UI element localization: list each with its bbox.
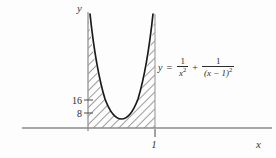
- term2-numerator: 1: [213, 57, 224, 66]
- x-axis-label: x: [256, 138, 261, 150]
- y-axis-label: y: [77, 2, 82, 14]
- equation-equals: =: [166, 62, 172, 73]
- term1-denominator: x2: [177, 67, 188, 78]
- term1-numerator: 1: [177, 57, 188, 66]
- equation-lhs: y: [158, 62, 162, 73]
- figure-container: y x 16 8 1 y = 1 x2 + 1 (x − 1)2: [0, 0, 276, 158]
- shaded-region: [86, 12, 157, 130]
- plot-canvas: [0, 0, 276, 158]
- y-tick-label-8: 8: [62, 108, 82, 119]
- x-tick-label-1: 1: [148, 139, 160, 150]
- equation-term-1: 1 x2: [177, 57, 188, 78]
- term2-denominator: (x − 1)2: [202, 67, 234, 78]
- equation-annotation: y = 1 x2 + 1 (x − 1)2: [158, 57, 235, 78]
- y-tick-label-16: 16: [62, 95, 82, 106]
- equation-term-2: 1 (x − 1)2: [202, 57, 234, 78]
- equation-operator: +: [192, 62, 198, 73]
